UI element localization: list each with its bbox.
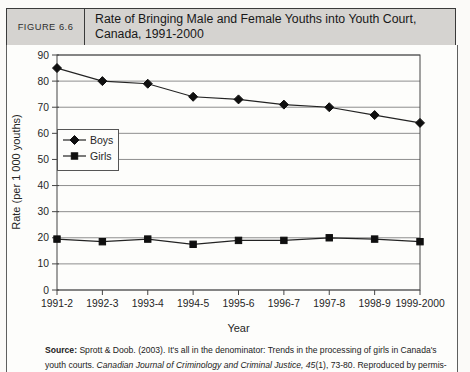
svg-text:1999-2000: 1999-2000 bbox=[395, 298, 445, 309]
svg-text:20: 20 bbox=[38, 232, 50, 243]
svg-text:30: 30 bbox=[38, 206, 50, 217]
svg-text:0: 0 bbox=[43, 285, 49, 296]
gridlines bbox=[52, 55, 420, 290]
svg-text:1996-7: 1996-7 bbox=[268, 298, 300, 309]
source-journal-title: Canadian Journal of Criminology and Crim… bbox=[97, 360, 316, 370]
svg-text:1998-9: 1998-9 bbox=[359, 298, 391, 309]
line-chart: 01020304050607080901991-21992-31993-4199… bbox=[7, 45, 458, 341]
source-label: Source: bbox=[45, 345, 77, 355]
legend: BoysGirls bbox=[58, 130, 119, 171]
figure-title-line2: Canada, 1991-2000 bbox=[95, 27, 204, 41]
svg-text:50: 50 bbox=[38, 154, 50, 165]
svg-text:10: 10 bbox=[38, 258, 50, 269]
svg-text:90: 90 bbox=[38, 50, 50, 61]
figure-body: 01020304050607080901991-21992-31993-4199… bbox=[6, 45, 458, 372]
svg-text:1991-2: 1991-2 bbox=[41, 298, 73, 309]
svg-text:1997-8: 1997-8 bbox=[313, 298, 345, 309]
x-axis-title: Year bbox=[227, 322, 250, 334]
plot-area-border bbox=[57, 55, 420, 290]
figure-header: FIGURE 6.6 Rate of Bringing Male and Fem… bbox=[6, 8, 456, 47]
source-citation: Source: Sprott & Doob. (2003). It's all … bbox=[45, 343, 447, 372]
figure-number-label: FIGURE 6.6 bbox=[7, 9, 85, 46]
source-line1-text: Sprott & Doob. (2003). It's all in the d… bbox=[77, 345, 437, 355]
svg-text:1992-3: 1992-3 bbox=[86, 298, 118, 309]
y-axis-title: Rate (per 1 000 youths) bbox=[10, 114, 22, 230]
svg-text:60: 60 bbox=[38, 128, 50, 139]
svg-text:80: 80 bbox=[38, 76, 50, 87]
source-line2-text: youth courts. bbox=[45, 360, 97, 370]
series-girls bbox=[54, 235, 423, 248]
svg-text:70: 70 bbox=[38, 102, 50, 113]
legend-label-boys: Boys bbox=[90, 134, 113, 146]
figure-title: Rate of Bringing Male and Female Youths … bbox=[85, 9, 426, 46]
y-axis-tick-labels: 0102030405060708090 bbox=[38, 50, 50, 296]
svg-text:1994-5: 1994-5 bbox=[177, 298, 209, 309]
series-boys bbox=[53, 64, 425, 128]
x-axis-tick-labels: 1991-21992-31993-41994-51995-61996-71997… bbox=[41, 290, 445, 309]
svg-text:1995-6: 1995-6 bbox=[222, 298, 254, 309]
svg-text:1993-4: 1993-4 bbox=[132, 298, 164, 309]
svg-text:40: 40 bbox=[38, 180, 50, 191]
source-line2-tail: (1), 73-80. Reproduced by permis- bbox=[315, 360, 446, 370]
figure-title-line1: Rate of Bringing Male and Female Youths … bbox=[95, 12, 416, 26]
legend-label-girls: Girls bbox=[90, 150, 112, 162]
